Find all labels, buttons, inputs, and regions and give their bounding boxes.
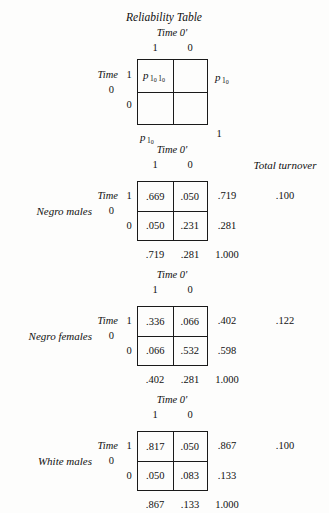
group-2-cell-0-0: .083 bbox=[173, 461, 208, 490]
group-0-cell-1-1: .669 bbox=[138, 182, 173, 211]
schematic-cell-0-1 bbox=[138, 92, 173, 124]
group-1-matrix: .336 .066 .066 .532 bbox=[137, 306, 208, 366]
col-margin-p: p bbox=[140, 131, 146, 143]
group-1-left-axis-word: Time bbox=[98, 316, 118, 327]
schematic-left-axis-word: Time bbox=[98, 70, 118, 81]
group-0-col-header-0: 0 bbox=[187, 160, 192, 171]
group-2-name: White males bbox=[38, 456, 92, 467]
group-1-col-header-0: 0 bbox=[187, 285, 192, 296]
group-1-cell-1-0: .066 bbox=[173, 307, 208, 336]
group-0-top-axis-label: Time 0' bbox=[157, 145, 188, 156]
group-1-left-axis-num: 0 bbox=[109, 331, 114, 342]
group-1-row-total-1: .402 bbox=[218, 316, 236, 327]
schematic-col-margin-symbol: p10 bbox=[140, 128, 154, 145]
schematic-cell-sub-b-sub: 0 bbox=[162, 77, 165, 83]
reliability-table-page: Reliability Table Time 0' 1 0 Time 0 1 0… bbox=[0, 0, 329, 513]
group-0-left-axis-num: 0 bbox=[109, 206, 114, 217]
group-2-row-header-0: 0 bbox=[126, 471, 131, 482]
row-margin-p: p bbox=[215, 71, 221, 83]
group-1-total-turnover: .122 bbox=[276, 316, 294, 327]
group-0-matrix: .669 .050 .050 .231 bbox=[137, 181, 208, 241]
group-0-total-turnover: .100 bbox=[276, 191, 294, 202]
schematic-left-axis-num: 0 bbox=[109, 85, 114, 96]
group-2-row-header-1: 1 bbox=[126, 441, 131, 452]
col-margin-sub-sub: 0 bbox=[151, 139, 154, 145]
group-2-cell-0-1: .050 bbox=[138, 461, 173, 490]
group-2-matrix: .817 .050 .050 .083 bbox=[137, 431, 208, 491]
group-2-col-total-1: .867 bbox=[146, 500, 164, 511]
schematic-cell-1-0 bbox=[173, 60, 208, 92]
group-2-row-total-1: .867 bbox=[218, 441, 236, 452]
schematic-row-header-0: 0 bbox=[126, 100, 131, 111]
group-2-total-turnover: .100 bbox=[276, 441, 294, 452]
group-1-grand-total: 1.000 bbox=[215, 375, 239, 386]
schematic-cell-1-1: p1010 bbox=[138, 60, 173, 92]
group-0-cell-1-0: .050 bbox=[173, 182, 208, 211]
schematic-col-header-1: 1 bbox=[152, 43, 157, 54]
total-turnover-header: Total turnover bbox=[254, 160, 317, 171]
group-0-row-header-1: 1 bbox=[126, 191, 131, 202]
group-1-cell-1-1: .336 bbox=[138, 307, 173, 336]
group-2-col-total-0: .133 bbox=[181, 500, 199, 511]
schematic-cell-0-0 bbox=[173, 92, 208, 124]
group-2-left-axis-word: Time bbox=[98, 441, 118, 452]
group-0-col-total-0: .281 bbox=[181, 250, 199, 261]
group-0-row-total-0: .281 bbox=[218, 221, 236, 232]
schematic-matrix: p1010 bbox=[137, 59, 208, 125]
page-title: Reliability Table bbox=[126, 12, 202, 24]
schematic-row-header-1: 1 bbox=[126, 70, 131, 81]
schematic-cell-p-symbol: p bbox=[143, 69, 149, 81]
group-1-col-total-0: .281 bbox=[181, 375, 199, 386]
group-2-grand-total: 1.000 bbox=[215, 500, 239, 511]
group-2-cell-1-0: .050 bbox=[173, 432, 208, 461]
group-0-row-header-0: 0 bbox=[126, 221, 131, 232]
group-0-grand-total: 1.000 bbox=[215, 250, 239, 261]
group-1-col-total-1: .402 bbox=[146, 375, 164, 386]
group-0-col-header-1: 1 bbox=[152, 160, 157, 171]
group-2-cell-1-1: .817 bbox=[138, 432, 173, 461]
group-2-col-header-1: 1 bbox=[152, 410, 157, 421]
schematic-grand-total: 1 bbox=[216, 129, 221, 140]
group-0-col-total-1: .719 bbox=[146, 250, 164, 261]
group-1-col-header-1: 1 bbox=[152, 285, 157, 296]
group-0-cell-0-0: .231 bbox=[173, 211, 208, 240]
group-1-row-header-1: 1 bbox=[126, 316, 131, 327]
group-0-left-axis-word: Time bbox=[98, 191, 118, 202]
row-margin-sub-sub: 0 bbox=[226, 79, 229, 85]
group-2-top-axis-label: Time 0' bbox=[157, 395, 188, 406]
group-1-row-total-0: .598 bbox=[218, 346, 236, 357]
group-2-row-total-0: .133 bbox=[218, 471, 236, 482]
group-0-name: Negro males bbox=[36, 206, 92, 217]
group-1-top-axis-label: Time 0' bbox=[157, 270, 188, 281]
group-1-row-header-0: 0 bbox=[126, 346, 131, 357]
schematic-col-header-0: 0 bbox=[187, 43, 192, 54]
group-1-cell-0-0: .532 bbox=[173, 336, 208, 365]
group-1-name: Negro females bbox=[29, 331, 92, 342]
group-0-row-total-1: .719 bbox=[218, 191, 236, 202]
group-2-col-header-0: 0 bbox=[187, 410, 192, 421]
group-1-cell-0-1: .066 bbox=[138, 336, 173, 365]
group-2-left-axis-num: 0 bbox=[109, 456, 114, 467]
schematic-row-margin-symbol: p10 bbox=[215, 68, 229, 85]
group-0-cell-0-1: .050 bbox=[138, 211, 173, 240]
schematic-top-axis-label: Time 0' bbox=[157, 28, 188, 39]
schematic-cell-sub-a-sub: 0 bbox=[154, 77, 157, 83]
